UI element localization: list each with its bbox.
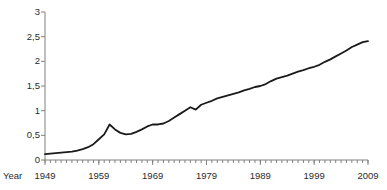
x-axis-tick-label: 1949 bbox=[34, 170, 55, 181]
axis-lines bbox=[45, 12, 368, 160]
line-chart: Million inhabitants 00,511,522,53 Year 1… bbox=[0, 0, 387, 190]
data-series-line bbox=[45, 41, 368, 154]
x-axis-tick-label: 2009 bbox=[357, 170, 378, 181]
x-axis-tick-label: 1959 bbox=[88, 170, 109, 181]
x-axis-tick-label: 1999 bbox=[304, 170, 325, 181]
x-axis-tick-label: 1989 bbox=[250, 170, 271, 181]
y-axis-ticks bbox=[41, 12, 45, 160]
plot-area bbox=[0, 0, 387, 190]
x-axis-tick-label: 1969 bbox=[142, 170, 163, 181]
x-axis-tick-label: 1979 bbox=[196, 170, 217, 181]
chart-screenshot: Million inhabitants 00,511,522,53 Year 1… bbox=[0, 0, 387, 190]
x-axis-tick-labels: 1949195919691979198919992009 bbox=[0, 170, 387, 182]
